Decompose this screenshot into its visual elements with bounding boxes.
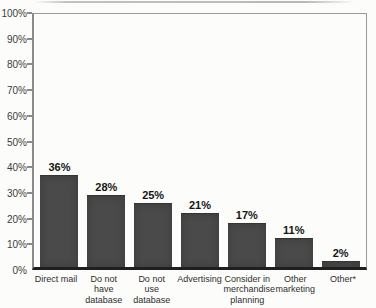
y-tick-label: 60% [7,110,27,121]
bar [322,261,360,267]
y-tick-label: 30% [7,187,27,198]
x-category-label: Other marketing [271,274,319,305]
bar-value-label: 25% [142,189,164,201]
bar [228,223,266,267]
plot-area: 36%28%25%21%17%11%2% [32,13,367,270]
y-tick-label: 50% [7,136,27,147]
x-category-label: Direct mail [32,274,80,305]
x-category-label: Other* [319,274,367,305]
bar-column: 36% [36,14,83,267]
x-category-label: Consider in merchandise planning [223,274,271,305]
bars-container: 36%28%25%21%17%11%2% [34,14,366,267]
y-tick-label: 90% [7,33,27,44]
bar-value-label: 2% [333,247,349,259]
y-tick-label: 40% [7,162,27,173]
bar-column: 21% [177,14,224,267]
bar-column: 17% [223,14,270,267]
bar-value-label: 36% [48,161,70,173]
bar [87,195,125,267]
bar-value-label: 11% [283,224,304,236]
y-tick-label: 70% [7,85,27,96]
y-tick-label: 20% [7,213,27,224]
bar-column: 28% [83,14,130,267]
top-rule-divider [34,1,354,3]
y-tick-label: 10% [7,239,27,250]
x-category-label: Do not have database [80,274,128,305]
y-tick-label: 100% [1,8,27,19]
bar [275,238,313,267]
bar-column: 11% [270,14,317,267]
bar [40,175,78,267]
bar-value-label: 28% [95,181,117,193]
bar [181,213,219,267]
bar-column: 25% [130,14,177,267]
bar-chart-figure: 100%90%80%70%60%50%40%30%20%10%0% 36%28%… [0,0,376,308]
y-tick-label: 0% [13,265,27,276]
bar-column: 2% [317,14,364,267]
bar [134,203,172,267]
x-axis-labels: Direct mailDo not have databaseDo not us… [32,274,367,305]
x-category-label: Do not use database [128,274,176,305]
bar-value-label: 21% [189,199,211,211]
bar-value-label: 17% [236,209,258,221]
y-tick-label: 80% [7,59,27,70]
y-axis: 100%90%80%70%60%50%40%30%20%10%0% [0,13,32,270]
x-category-label: Advertising [176,274,224,305]
